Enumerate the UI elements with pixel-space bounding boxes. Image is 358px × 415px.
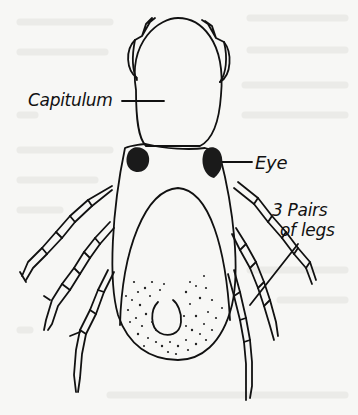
body-outline xyxy=(112,144,235,360)
inner-plate xyxy=(120,188,230,325)
legs-label-line2: of legs xyxy=(272,220,335,240)
left-palp xyxy=(128,18,155,78)
diagram-figure: Capitulum Eye 3 Pairs of legs xyxy=(0,0,358,415)
capitulum-outline xyxy=(135,18,222,146)
left-legs xyxy=(20,186,114,392)
eye-label: Eye xyxy=(255,154,287,172)
stippling xyxy=(125,275,223,355)
legs-label-line1: 3 Pairs xyxy=(272,200,335,220)
legs-leader xyxy=(250,244,298,305)
right-eye xyxy=(202,147,222,178)
left-eye xyxy=(126,147,149,172)
eyes xyxy=(126,147,222,178)
legs-label: 3 Pairs of legs xyxy=(272,200,335,240)
capitulum-label: Capitulum xyxy=(28,92,113,109)
